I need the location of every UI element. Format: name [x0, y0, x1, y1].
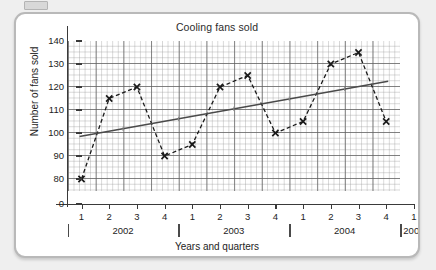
- y-tick-label: 90: [38, 151, 64, 161]
- x-tick-mark: [192, 204, 193, 209]
- y-tick-mark: [76, 109, 82, 110]
- y-axis-title: Number of fans sold: [29, 22, 40, 162]
- y-tick-mark: [76, 40, 82, 41]
- data-point-marker: [134, 84, 140, 90]
- year-label: 2002: [98, 225, 148, 236]
- x-tick-label: 3: [351, 211, 367, 222]
- x-tick-mark: [303, 204, 304, 209]
- x-tick-mark: [220, 204, 221, 209]
- x-tick-label: 4: [267, 211, 283, 222]
- y-axis-line: [67, 26, 68, 207]
- x-tick-label: 3: [129, 211, 145, 222]
- y-tick-label: 0: [38, 199, 64, 209]
- data-point-marker: [217, 84, 223, 90]
- x-tick-label: 2: [323, 211, 339, 222]
- x-tick-label: 4: [157, 211, 173, 222]
- data-point-marker: [162, 153, 168, 159]
- data-line: [82, 53, 387, 180]
- x-tick-mark: [359, 204, 360, 209]
- year-separator: [178, 224, 180, 237]
- data-point-marker: [300, 118, 306, 124]
- y-tick-label: 80: [38, 174, 64, 184]
- x-tick-mark: [137, 204, 138, 209]
- y-tick-mark: [76, 155, 82, 156]
- data-point-marker: [383, 118, 389, 124]
- x-tick-mark: [248, 204, 249, 209]
- x-axis-title: Years and quarters: [16, 241, 418, 252]
- x-tick-mark: [386, 204, 387, 209]
- x-tick-label: 1: [184, 211, 200, 222]
- y-tick-label: 110: [38, 105, 64, 115]
- x-tick-mark: [331, 204, 332, 209]
- y-tick-label: 100: [38, 128, 64, 138]
- x-tick-label: 3: [240, 211, 256, 222]
- x-tick-label: 1: [295, 211, 311, 222]
- year-label: 2004: [320, 225, 370, 236]
- year-label: 2003: [209, 225, 259, 236]
- chart-card: Cooling fans sold 08090100110120130140 N…: [14, 12, 420, 258]
- x-tick-label: 4: [378, 211, 394, 222]
- x-tick-label: 1: [74, 211, 90, 222]
- year-separator: [68, 224, 70, 237]
- data-point-marker: [189, 141, 195, 147]
- y-tick-label: 140: [38, 36, 64, 46]
- data-point-marker: [245, 72, 251, 78]
- x-tick-mark: [82, 204, 83, 209]
- x-tick-label: 1: [406, 211, 418, 222]
- x-tick-label: 2: [212, 211, 228, 222]
- x-tick-mark: [275, 204, 276, 209]
- plot-area: [68, 41, 400, 205]
- data-point-marker: [106, 95, 112, 101]
- y-tick-mark: [76, 86, 82, 87]
- x-tick-mark: [414, 204, 415, 209]
- year-label: 2005: [389, 225, 418, 236]
- x-tick-label: 2: [101, 211, 117, 222]
- y-tick-label: 130: [38, 59, 64, 69]
- y-tick-label: 120: [38, 82, 64, 92]
- data-point-marker: [272, 130, 278, 136]
- y-tick-mark: [76, 63, 82, 64]
- y-tick-mark: [76, 178, 82, 179]
- y-tick-mark: [76, 132, 82, 133]
- x-tick-mark: [109, 204, 110, 209]
- data-series-layer: [68, 41, 400, 205]
- year-separator: [289, 224, 291, 237]
- chart-title: Cooling fans sold: [16, 21, 418, 33]
- page-artifact: [24, 1, 48, 10]
- data-point-marker: [328, 61, 334, 67]
- data-point-marker: [355, 49, 361, 55]
- x-tick-mark: [165, 204, 166, 209]
